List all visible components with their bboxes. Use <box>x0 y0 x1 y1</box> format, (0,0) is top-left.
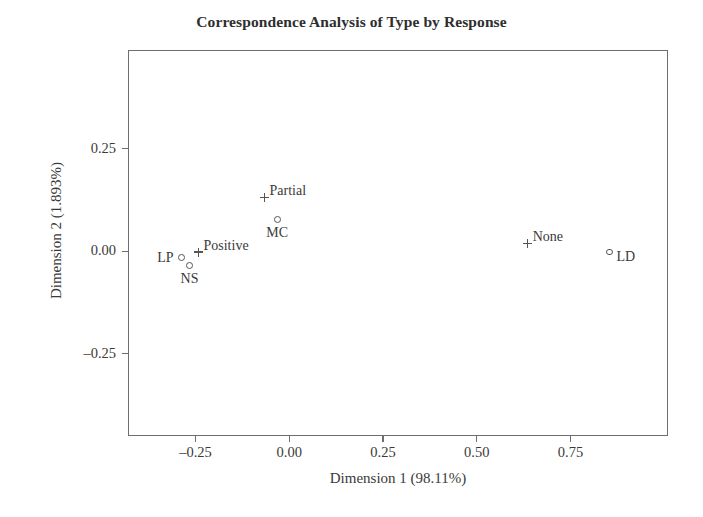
x-tick-label: 0.50 <box>437 444 517 461</box>
x-tick-label: 0.25 <box>343 444 423 461</box>
circle-marker-icon <box>178 254 185 261</box>
plus-marker-icon <box>260 193 269 202</box>
point-label: LD <box>617 250 636 264</box>
point-label: LP <box>157 251 173 265</box>
plus-marker-icon <box>194 248 203 257</box>
x-tick <box>476 436 477 442</box>
x-axis-label: Dimension 1 (98.11%) <box>128 470 668 487</box>
y-axis-label: Dimension 2 (1.893%) <box>48 71 65 391</box>
circle-marker-icon <box>186 262 193 269</box>
circle-marker-icon <box>274 216 281 223</box>
y-tick <box>122 353 128 354</box>
y-tick <box>122 148 128 149</box>
point-label: None <box>533 230 563 244</box>
x-tick <box>382 436 383 442</box>
x-tick-label: –0.25 <box>156 444 236 461</box>
x-tick <box>570 436 571 442</box>
plus-marker-icon <box>523 239 532 248</box>
point-label: MC <box>266 226 288 240</box>
y-tick <box>122 251 128 252</box>
point-label: Positive <box>204 239 249 253</box>
correspondence-analysis-figure: Correspondence Analysis of Type by Respo… <box>0 0 703 517</box>
x-tick <box>289 436 290 442</box>
point-label: NS <box>181 272 199 286</box>
point-label: Partial <box>270 184 307 198</box>
x-tick-label: 0.75 <box>531 444 611 461</box>
chart-title: Correspondence Analysis of Type by Respo… <box>0 13 703 31</box>
x-tick <box>195 436 196 442</box>
x-tick-label: 0.00 <box>249 444 329 461</box>
